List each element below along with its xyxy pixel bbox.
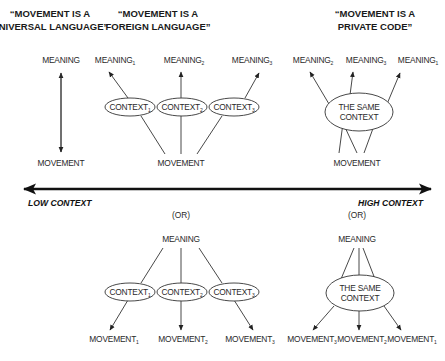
line-movement-context3: [197, 116, 222, 154]
title-universal-line2: UNIVERSAL LANGUAGE”: [0, 21, 108, 32]
context-diagram: “MOVEMENT IS A UNIVERSAL LANGUAGE” “MOVE…: [0, 0, 445, 361]
arrow-samecontext-meaning2: [310, 72, 329, 104]
bottom-private-movement-2: MOVEMENT2: [337, 334, 387, 345]
line-meaning-context1: [141, 248, 163, 283]
bottom-context-1-label: CONTEXT1: [109, 287, 151, 298]
title-foreign-line1: “MOVEMENT IS A: [118, 8, 199, 19]
high-context-label: HIGH CONTEXT: [358, 198, 424, 208]
same-context-line2: CONTEXT: [340, 112, 379, 122]
title-foreign-line2: FOREIGN LANGUAGE”: [105, 21, 210, 32]
title-universal-line1: “MOVEMENT IS A: [10, 8, 91, 19]
arrow-context3-movement3: [234, 300, 253, 330]
line-meaning-samecontext-c: [363, 248, 375, 279]
or-label-1: (OR): [172, 210, 190, 220]
title-universal-language: “MOVEMENT IS A UNIVERSAL LANGUAGE”: [0, 8, 108, 32]
title-foreign-language: “MOVEMENT IS A FOREIGN LANGUAGE”: [105, 8, 210, 32]
low-context-label: LOW CONTEXT: [28, 198, 92, 208]
universal-meaning-label: MEANING: [42, 55, 80, 65]
context-1-label: CONTEXT1: [109, 102, 151, 113]
bottom-private-meaning: MEANING: [338, 234, 376, 244]
arrow-context1-meaning1: [109, 72, 128, 98]
bottom-movement-3: MOVEMENT3: [225, 334, 275, 345]
bottom-context-3-label: CONTEXT3: [213, 287, 255, 298]
bottom-same-context-line2: CONTEXT: [341, 293, 380, 303]
arrow-samecontext-movement3: [313, 306, 334, 330]
arrow-samecontext-meaning1: [387, 73, 400, 104]
foreign-meaning-1: MEANING1: [95, 55, 136, 66]
bottom-context-2-label: CONTEXT2: [161, 287, 203, 298]
title-private-code: “MOVEMENT IS A PRIVATE CODE”: [335, 8, 416, 32]
private-meaning-3: MEANING3: [346, 55, 387, 66]
line-meaning-context3: [199, 248, 222, 283]
foreign-movement-label: MOVEMENT: [158, 158, 205, 168]
title-private-line1: “MOVEMENT IS A: [335, 8, 416, 19]
bottom-private-movement-1: MOVEMENT1: [387, 334, 437, 345]
private-code-diagram: MEANING2 MEANING3 MEANING1 THE SAME CONT…: [293, 55, 439, 168]
private-meaning-2: MEANING2: [293, 55, 334, 66]
bottom-foreign-meaning: MEANING: [162, 234, 200, 244]
bottom-movement-1: MOVEMENT1: [89, 334, 139, 345]
arrow-context1-movement1: [110, 300, 128, 330]
bottom-same-context-line1: THE SAME: [339, 283, 381, 293]
bottom-private-diagram: (OR) MEANING THE SAME CONTEXT MOVEMENT3 …: [287, 210, 437, 345]
private-movement-label: MOVEMENT: [334, 158, 381, 168]
arrow-samecontext-movement1: [384, 306, 401, 330]
universal-language-diagram: MEANING MOVEMENT: [38, 55, 85, 168]
or-label-2: (OR): [348, 210, 366, 220]
bottom-foreign-diagram: (OR) MEANING CONTEXT1 CONTEXT2 CONTEXT3 …: [89, 210, 275, 345]
line-movement-context1: [141, 116, 165, 154]
line-meaning-samecontext-a: [341, 248, 354, 279]
context-axis: LOW CONTEXT HIGH CONTEXT: [24, 189, 431, 208]
context-2-label: CONTEXT2: [161, 102, 203, 113]
bottom-private-movement-3: MOVEMENT3: [287, 334, 337, 345]
same-context-line1: THE SAME: [338, 102, 380, 112]
title-private-line2: PRIVATE CODE”: [338, 21, 413, 32]
arrow-samecontext-meaning3: [350, 72, 353, 95]
foreign-meaning-2: MEANING2: [164, 55, 205, 66]
arrow-context3-meaning3: [245, 73, 259, 98]
private-meaning-1: MEANING1: [398, 55, 439, 66]
universal-movement-label: MOVEMENT: [38, 158, 85, 168]
foreign-meaning-3: MEANING3: [232, 55, 273, 66]
foreign-language-diagram: MEANING1 MEANING2 MEANING3 CONTEXT1 CONT…: [95, 55, 273, 168]
bottom-movement-2: MOVEMENT2: [158, 334, 208, 345]
context-3-label: CONTEXT3: [213, 102, 255, 113]
